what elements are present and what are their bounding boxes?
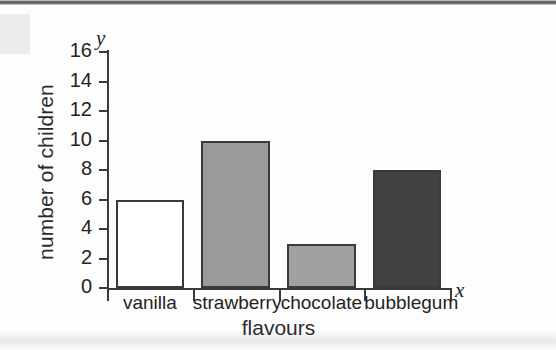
- category-label-chocolate: chocolate: [279, 292, 365, 314]
- category-label-vanilla: vanilla: [107, 292, 193, 314]
- plot-area: [0, 0, 556, 290]
- x-axis-title: flavours: [107, 316, 450, 340]
- bar-chart-figure: number of children y 0246810121416 x van…: [0, 0, 556, 350]
- bar-vanilla: [116, 200, 185, 289]
- bar-bubblegum: [373, 170, 442, 288]
- category-label-strawberry: strawberry: [193, 292, 279, 314]
- bar-strawberry: [201, 141, 270, 289]
- category-label-bubblegum: bubblegum: [364, 292, 450, 314]
- bar-chocolate: [287, 244, 356, 288]
